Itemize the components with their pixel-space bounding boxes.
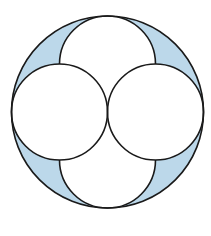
circles-diagram [0,0,211,236]
